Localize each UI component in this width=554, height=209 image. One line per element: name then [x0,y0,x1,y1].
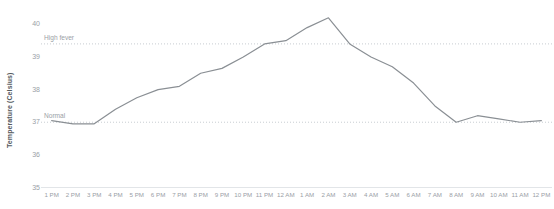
plot-area [0,0,554,209]
temperature-series-line [52,18,542,124]
temperature-line-chart: Temperature (Celsius) 403938373635 1 PM2… [0,0,554,209]
reference-lines [41,44,552,122]
